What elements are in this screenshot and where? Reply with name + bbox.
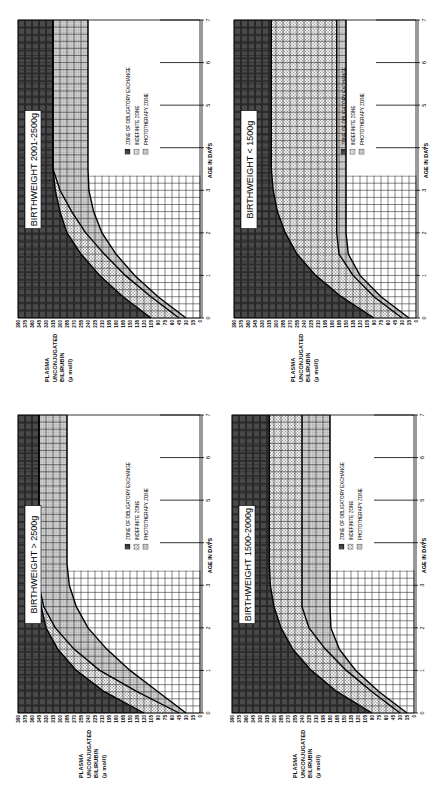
svg-text:BIRTHWEIGHT > 2500g: BIRTHWEIGHT > 2500g bbox=[29, 516, 39, 614]
svg-text:360: 360 bbox=[244, 715, 249, 723]
svg-text:360: 360 bbox=[30, 320, 35, 328]
svg-text:135: 135 bbox=[349, 715, 354, 723]
svg-text:INDEFINITE ZONE: INDEFINITE ZONE bbox=[135, 106, 140, 146]
chart-svg: 01234567AGE IN DAYS015304560759010512013… bbox=[18, 401, 214, 713]
svg-text:AGE IN DAYS: AGE IN DAYS bbox=[207, 143, 213, 179]
svg-text:3: 3 bbox=[205, 584, 211, 587]
svg-text:195: 195 bbox=[321, 715, 326, 723]
svg-text:345: 345 bbox=[37, 715, 42, 723]
svg-text:330: 330 bbox=[44, 320, 49, 328]
chart-svg: 01234567AGE IN DAYS015304560759010512013… bbox=[18, 6, 214, 318]
ylabel-line-1: PLASMA bbox=[78, 730, 86, 778]
y-axis-label: PLASMA UNCONJUGATED BILIRUBIN (μ mol/l) bbox=[44, 334, 74, 382]
svg-text:135: 135 bbox=[135, 320, 140, 328]
chart-svg: 01234567AGE IN DAYS015304560759010512013… bbox=[232, 401, 428, 713]
svg-text:6: 6 bbox=[421, 61, 427, 64]
svg-text:270: 270 bbox=[286, 715, 291, 723]
ylabel-line-3: BILIRUBIN bbox=[305, 334, 313, 382]
svg-text:375: 375 bbox=[237, 715, 242, 723]
svg-text:165: 165 bbox=[121, 715, 126, 723]
rotated-chart: 01234567AGE IN DAYS015304560759010512013… bbox=[18, 6, 214, 318]
y-axis-label: PLASMA UNCONJUGATED BILIRUBIN (μ mol/l) bbox=[292, 730, 322, 778]
svg-text:330: 330 bbox=[44, 715, 49, 723]
svg-text:300: 300 bbox=[274, 320, 279, 328]
svg-text:255: 255 bbox=[79, 320, 84, 328]
svg-text:5: 5 bbox=[419, 499, 425, 502]
svg-text:105: 105 bbox=[149, 715, 154, 723]
svg-text:7: 7 bbox=[205, 413, 211, 416]
svg-text:285: 285 bbox=[279, 715, 284, 723]
svg-text:ZONE OF OBLIGATORY EXCHANGE: ZONE OF OBLIGATORY EXCHANGE bbox=[342, 67, 347, 145]
svg-text:225: 225 bbox=[93, 715, 98, 723]
svg-text:7: 7 bbox=[421, 18, 427, 21]
svg-text:105: 105 bbox=[363, 715, 368, 723]
svg-text:300: 300 bbox=[272, 715, 277, 723]
svg-text:165: 165 bbox=[337, 320, 342, 328]
svg-text:255: 255 bbox=[79, 715, 84, 723]
svg-text:315: 315 bbox=[51, 320, 56, 328]
svg-text:255: 255 bbox=[293, 715, 298, 723]
svg-text:150: 150 bbox=[342, 715, 347, 723]
svg-text:2: 2 bbox=[419, 626, 425, 629]
svg-text:75: 75 bbox=[163, 715, 168, 721]
svg-text:180: 180 bbox=[114, 320, 119, 328]
svg-text:270: 270 bbox=[72, 715, 77, 723]
svg-text:5: 5 bbox=[421, 104, 427, 107]
ylabel-line-4: (μ mol/l) bbox=[67, 334, 75, 382]
svg-text:7: 7 bbox=[419, 413, 425, 416]
svg-text:5: 5 bbox=[205, 104, 211, 107]
svg-text:AGE IN DAYS: AGE IN DAYS bbox=[423, 143, 429, 179]
svg-text:390: 390 bbox=[230, 715, 235, 723]
svg-text:45: 45 bbox=[177, 320, 182, 326]
svg-text:75: 75 bbox=[163, 320, 168, 326]
svg-text:255: 255 bbox=[295, 320, 300, 328]
svg-text:3: 3 bbox=[421, 189, 427, 192]
svg-text:150: 150 bbox=[128, 715, 133, 723]
svg-text:3: 3 bbox=[419, 584, 425, 587]
svg-text:390: 390 bbox=[16, 320, 21, 328]
svg-text:PHOTOTHERAPY ZONE: PHOTOTHERAPY ZONE bbox=[358, 488, 363, 540]
svg-text:1: 1 bbox=[205, 669, 211, 672]
svg-text:375: 375 bbox=[23, 715, 28, 723]
svg-text:60: 60 bbox=[170, 715, 175, 721]
ylabel-line-4: (μ mol/l) bbox=[313, 334, 321, 382]
svg-text:120: 120 bbox=[358, 320, 363, 328]
svg-text:15: 15 bbox=[191, 320, 196, 326]
svg-text:90: 90 bbox=[156, 715, 161, 721]
svg-text:INDEFINITE ZONE: INDEFINITE ZONE bbox=[351, 106, 356, 146]
ylabel-line-1: PLASMA bbox=[292, 730, 300, 778]
svg-text:285: 285 bbox=[65, 715, 70, 723]
svg-text:0: 0 bbox=[419, 711, 425, 714]
svg-text:300: 300 bbox=[58, 715, 63, 723]
svg-text:330: 330 bbox=[260, 320, 265, 328]
svg-text:0: 0 bbox=[198, 715, 203, 718]
svg-text:390: 390 bbox=[232, 320, 237, 328]
svg-text:270: 270 bbox=[288, 320, 293, 328]
svg-text:315: 315 bbox=[51, 715, 56, 723]
svg-text:6: 6 bbox=[205, 456, 211, 459]
svg-text:0: 0 bbox=[414, 320, 419, 323]
svg-text:315: 315 bbox=[265, 715, 270, 723]
rotated-chart: 01234567AGE IN DAYS015304560759010512013… bbox=[18, 401, 214, 713]
svg-text:210: 210 bbox=[316, 320, 321, 328]
svg-text:285: 285 bbox=[281, 320, 286, 328]
ylabel-line-2: UNCONJUGATED bbox=[86, 730, 94, 778]
chart-panel-2001-2500g: 01234567AGE IN DAYS015304560759010512013… bbox=[0, 0, 220, 400]
svg-text:360: 360 bbox=[246, 320, 251, 328]
ylabel-line-4: (μ mol/l) bbox=[315, 730, 323, 778]
svg-text:INDEFINITE ZONE: INDEFINITE ZONE bbox=[349, 501, 354, 541]
svg-text:345: 345 bbox=[37, 320, 42, 328]
svg-text:120: 120 bbox=[356, 715, 361, 723]
svg-text:15: 15 bbox=[407, 320, 412, 326]
svg-text:15: 15 bbox=[405, 715, 410, 721]
ylabel-line-2: UNCONJUGATED bbox=[52, 334, 60, 382]
svg-text:30: 30 bbox=[400, 320, 405, 326]
svg-text:6: 6 bbox=[419, 456, 425, 459]
svg-text:90: 90 bbox=[156, 320, 161, 326]
svg-text:AGE IN DAYS: AGE IN DAYS bbox=[207, 538, 213, 574]
svg-text:ZONE OF OBLIGATORY EXCHANGE: ZONE OF OBLIGATORY EXCHANGE bbox=[126, 67, 131, 145]
svg-text:0: 0 bbox=[412, 715, 417, 718]
svg-text:240: 240 bbox=[86, 320, 91, 328]
ylabel-line-3: BILIRUBIN bbox=[93, 730, 101, 778]
rotated-chart: 01234567AGE IN DAYS015304560759010512013… bbox=[232, 401, 428, 713]
